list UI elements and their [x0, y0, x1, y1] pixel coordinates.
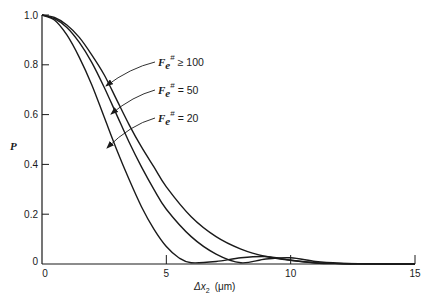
legend-item-100: Fe#≥ 100: [106, 53, 204, 86]
legend-item-50: Fe#= 50: [111, 81, 199, 114]
curve-series-2: [42, 15, 415, 264]
x-tick-label: 10: [285, 268, 297, 279]
curve-series-1: [42, 15, 415, 264]
legend-label-100: Fe#≥ 100: [157, 53, 204, 71]
arrow-icon: [106, 62, 155, 86]
x-axis-title-delta: Δx: [193, 281, 207, 292]
legend-label-20: Fe#= 20: [157, 109, 199, 127]
y-tick-label: 0.6: [24, 109, 38, 120]
legend-item-20: Fe#= 20: [107, 109, 199, 148]
curve-series-0: [42, 15, 415, 264]
y-tick-label: 1.0: [24, 10, 38, 21]
chart: 00.20.40.60.81.0 051015 P Δx2(μm) Fe#≥ 1…: [0, 0, 429, 297]
x-tick-label: 5: [164, 268, 170, 279]
y-tick-label: 0.2: [24, 209, 38, 220]
curves: [42, 15, 415, 264]
y-tick-label: 0.4: [24, 159, 38, 170]
x-axis-title-unit: (μm): [215, 281, 236, 292]
y-axis-title: P: [10, 140, 17, 152]
y-tick-label: 0.8: [24, 59, 38, 70]
x-tick-label: 15: [409, 268, 421, 279]
legend-label-50: Fe#= 50: [157, 81, 199, 99]
y-ticks: 00.20.40.60.81.0: [24, 10, 49, 268]
x-tick-label: 0: [42, 268, 48, 279]
legend: Fe#≥ 100 Fe#= 50 Fe#= 20: [106, 53, 204, 148]
x-axis-title-subscript: 2: [206, 287, 210, 294]
y-tick-label: 0: [32, 256, 38, 267]
x-axis-title: Δx2(μm): [193, 281, 235, 294]
